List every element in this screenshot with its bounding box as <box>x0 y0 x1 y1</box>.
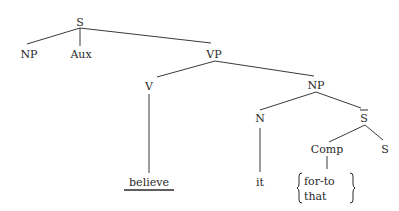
node-s-embedded: S <box>381 143 389 156</box>
comp-option-for-to: for-to <box>304 175 335 188</box>
edge-vp-np <box>215 61 314 76</box>
tree-nodes: S NP Aux VP V NP N S Comp S believe it f… <box>20 16 388 203</box>
node-np-object: NP <box>307 79 325 92</box>
edge-sbar-comp <box>329 125 365 142</box>
node-s-root: S <box>76 16 84 29</box>
edge-np-sbar <box>316 92 361 108</box>
terminal-it: it <box>256 176 265 189</box>
syntax-tree-diagram: S NP Aux VP V NP N S Comp S believe it f… <box>0 0 399 211</box>
node-v: V <box>144 80 154 93</box>
comp-options-brace: for-to that <box>297 173 355 203</box>
edge-s-vp <box>80 28 211 43</box>
left-brace-icon <box>297 173 302 203</box>
comp-option-that: that <box>304 190 327 203</box>
node-vp: VP <box>205 48 222 61</box>
node-aux: Aux <box>69 48 92 61</box>
edge-np-n <box>260 92 316 110</box>
node-n: N <box>255 112 265 125</box>
right-brace-icon <box>350 173 355 203</box>
terminal-believe-label: believe <box>129 176 169 189</box>
node-s-bar-label: S <box>360 112 368 125</box>
edge-s-np <box>27 28 80 44</box>
node-np-subject: NP <box>20 48 38 61</box>
edge-vp-v <box>157 61 215 77</box>
node-comp: Comp <box>311 143 344 156</box>
edge-sbar-s <box>365 125 383 140</box>
node-s-bar: S <box>360 110 368 125</box>
terminal-believe: believe <box>124 176 174 190</box>
